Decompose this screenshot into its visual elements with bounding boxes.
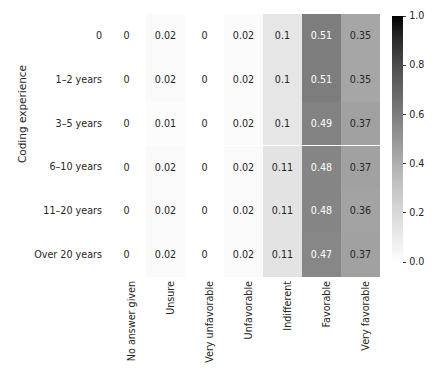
colorbar-tick-text: 0.8 xyxy=(409,60,424,70)
y-tick-label: 0 xyxy=(0,31,102,41)
heatmap-cell-value: 0 xyxy=(123,31,129,41)
heatmap-cell-value: 0 xyxy=(123,163,129,173)
x-axis-tick-labels: No answer givenUnsureVery unfavorableUnf… xyxy=(107,277,380,386)
heatmap-cell: 0.37 xyxy=(341,233,380,277)
colorbar-tick-text: 0.2 xyxy=(409,208,424,218)
heatmap-cell-value: 0.11 xyxy=(272,163,293,173)
heatmap-grid: 00.0200.020.10.510.3500.0200.020.10.510.… xyxy=(107,14,380,277)
x-tick-label: No answer given xyxy=(127,281,137,361)
colorbar-tick-text: 0.4 xyxy=(409,159,424,169)
heatmap-cell: 0 xyxy=(185,146,224,190)
heatmap-cell-value: 0 xyxy=(201,250,207,260)
heatmap-cell-value: 0.11 xyxy=(272,250,293,260)
heatmap-cell-value: 0.02 xyxy=(155,163,176,173)
heatmap-row: 00.0200.020.10.510.35 xyxy=(107,14,380,58)
heatmap-cell-value: 0.48 xyxy=(311,206,332,216)
heatmap-cell-value: 0.35 xyxy=(350,75,371,85)
heatmap-cell-value: 0 xyxy=(201,119,207,129)
heatmap-row: 00.0200.020.110.470.37 xyxy=(107,233,380,277)
colorbar-tick-mark xyxy=(403,16,406,17)
colorbar-tick-mark xyxy=(403,114,406,115)
heatmap-cell: 0.11 xyxy=(263,189,302,233)
heatmap-cell: 0.01 xyxy=(146,102,185,146)
heatmap-cell: 0 xyxy=(107,58,146,102)
heatmap-cell: 0.35 xyxy=(341,14,380,58)
x-tick-label: Unfavorable xyxy=(244,281,254,339)
heatmap-cell-value: 0.02 xyxy=(233,206,254,216)
heatmap-cell-value: 0.37 xyxy=(350,163,371,173)
heatmap-cell-value: 0.02 xyxy=(233,250,254,260)
heatmap-cell-value: 0 xyxy=(123,75,129,85)
heatmap-cell: 0.02 xyxy=(224,233,263,277)
heatmap-cell-value: 0.47 xyxy=(311,250,332,260)
colorbar-tick-mark xyxy=(403,212,406,213)
heatmap-cell-value: 0 xyxy=(123,119,129,129)
x-tick-label-slot: Favorable xyxy=(302,277,341,386)
heatmap-cell: 0.49 xyxy=(302,102,341,146)
heatmap-cell: 0.02 xyxy=(224,102,263,146)
heatmap-row: 00.0100.020.10.490.37 xyxy=(107,102,380,146)
heatmap-cell: 0.02 xyxy=(146,58,185,102)
heatmap-row: 00.0200.020.10.510.35 xyxy=(107,58,380,102)
heatmap-cell: 0.48 xyxy=(302,189,341,233)
heatmap-cell: 0.1 xyxy=(263,102,302,146)
heatmap-cell-value: 0 xyxy=(201,163,207,173)
heatmap-cell: 0.37 xyxy=(341,146,380,190)
heatmap-cell-value: 0.02 xyxy=(233,75,254,85)
heatmap-cell-value: 0.11 xyxy=(272,206,293,216)
x-tick-label-slot: Very unfavorable xyxy=(185,277,224,386)
x-tick-label-slot: No answer given xyxy=(107,277,146,386)
heatmap-cell: 0.02 xyxy=(224,14,263,58)
colorbar-tick-text: 0.0 xyxy=(409,257,424,267)
heatmap-cell-value: 0.48 xyxy=(311,163,332,173)
y-tick-label: 11–20 years xyxy=(0,206,102,216)
heatmap-cell: 0 xyxy=(185,58,224,102)
x-tick-label-slot: Unsure xyxy=(146,277,185,386)
heatmap-cell-value: 0.02 xyxy=(155,75,176,85)
heatmap-cell: 0 xyxy=(107,14,146,58)
x-tick-label: Favorable xyxy=(322,281,332,328)
heatmap-cell: 0 xyxy=(107,233,146,277)
x-tick-label: Very favorable xyxy=(361,281,371,351)
heatmap-row: 00.0200.020.110.480.36 xyxy=(107,189,380,233)
heatmap-cell: 0.51 xyxy=(302,58,341,102)
heatmap-cell: 0 xyxy=(185,14,224,58)
heatmap-cell: 0 xyxy=(185,189,224,233)
heatmap-cell: 0.11 xyxy=(263,146,302,190)
heatmap-row: 00.0200.020.110.480.37 xyxy=(107,146,380,190)
heatmap-cell-value: 0.02 xyxy=(155,31,176,41)
heatmap-cell-value: 0.36 xyxy=(350,206,371,216)
colorbar-tick-text: 0.6 xyxy=(409,110,424,120)
heatmap-cell: 0.36 xyxy=(341,189,380,233)
x-tick-label-slot: Unfavorable xyxy=(224,277,263,386)
heatmap-cell-value: 0.02 xyxy=(155,250,176,260)
heatmap-cell-value: 0.02 xyxy=(155,206,176,216)
x-tick-label: Indifferent xyxy=(283,281,293,331)
heatmap-cell-value: 0 xyxy=(123,250,129,260)
heatmap-cell: 0.02 xyxy=(146,233,185,277)
heatmap-cell: 0.37 xyxy=(341,102,380,146)
x-tick-label-slot: Indifferent xyxy=(263,277,302,386)
heatmap-cell: 0 xyxy=(185,102,224,146)
heatmap-cell: 0.47 xyxy=(302,233,341,277)
heatmap-cell: 0.02 xyxy=(146,14,185,58)
heatmap-cell-value: 0.1 xyxy=(275,119,290,129)
heatmap-cell: 0.02 xyxy=(146,189,185,233)
heatmap-cell-value: 0.37 xyxy=(350,250,371,260)
heatmap-cell-value: 0.1 xyxy=(275,31,290,41)
x-tick-label-slot: Very favorable xyxy=(341,277,380,386)
colorbar-tick-mark xyxy=(403,163,406,164)
heatmap-cell: 0.48 xyxy=(302,146,341,190)
y-tick-label: 6–10 years xyxy=(0,162,102,172)
heatmap-cell: 0.02 xyxy=(146,146,185,190)
heatmap-cell: 0.51 xyxy=(302,14,341,58)
heatmap-cell-value: 0.35 xyxy=(350,31,371,41)
colorbar-tick-labels: 0.00.20.40.60.81.0 xyxy=(403,16,436,262)
heatmap-cell-value: 0.51 xyxy=(311,31,332,41)
heatmap-cell: 0.1 xyxy=(263,14,302,58)
heatmap-cell: 0.02 xyxy=(224,189,263,233)
x-tick-label: Unsure xyxy=(166,281,176,315)
heatmap-cell-value: 0.02 xyxy=(233,119,254,129)
heatmap-cell-value: 0.02 xyxy=(233,163,254,173)
heatmap-cell-value: 0.1 xyxy=(275,75,290,85)
